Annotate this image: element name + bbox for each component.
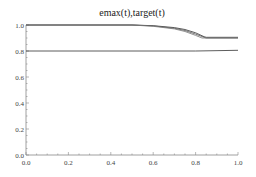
y-tick-label: 0.2 — [15, 126, 24, 134]
x-tick-label: 0.8 — [191, 159, 200, 167]
y-tick-label: 0.4 — [15, 100, 24, 108]
y-tick-label: 0.0 — [15, 152, 24, 160]
x-tick-label: 0.2 — [64, 159, 73, 167]
y-tick-label: 0.6 — [15, 74, 24, 82]
y-tick-label: 0.8 — [15, 48, 24, 56]
series-line — [26, 50, 238, 51]
x-tick-label: 0.0 — [22, 159, 31, 167]
x-tick-label: 1.0 — [234, 159, 243, 167]
chart: emax(t),target(t) 0.00.20.40.60.81.00.00… — [0, 0, 256, 177]
plot-lines — [26, 25, 238, 51]
series-line — [26, 25, 238, 38]
axes: 0.00.20.40.60.81.00.00.20.40.60.81.0 — [15, 22, 243, 168]
series-line — [26, 25, 238, 38]
y-tick-label: 1.0 — [15, 22, 24, 30]
x-tick-label: 0.6 — [149, 159, 158, 167]
chart-title: emax(t),target(t) — [99, 7, 165, 19]
x-tick-label: 0.4 — [106, 159, 115, 167]
series-line — [26, 25, 238, 37]
